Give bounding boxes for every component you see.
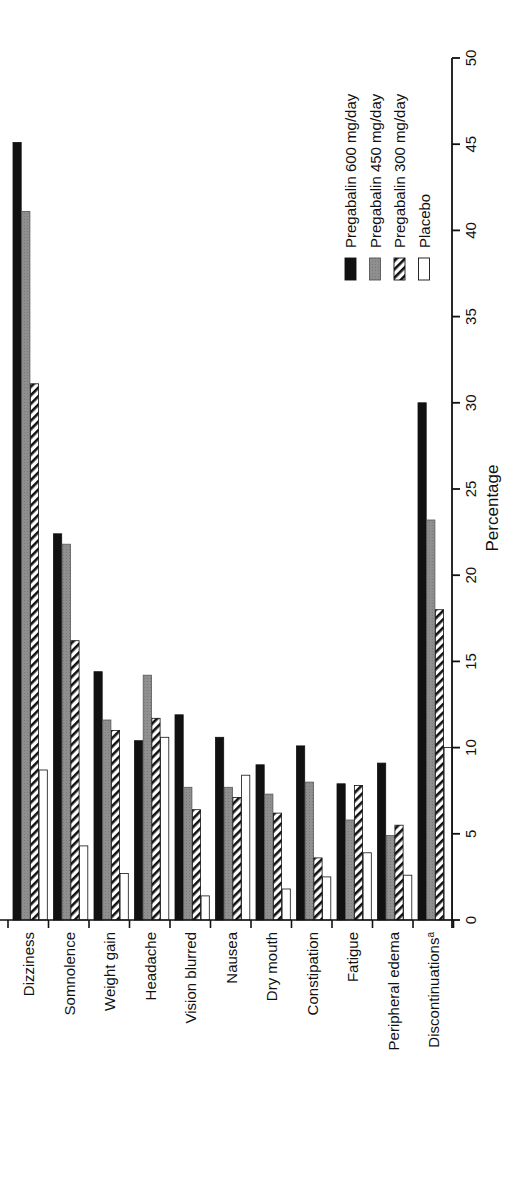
bar (395, 825, 403, 920)
legend: Pregabalin 600 mg/dayPregabalin 450 mg/d… (342, 93, 433, 280)
bar (323, 877, 331, 920)
bar (143, 675, 151, 920)
bar-group (256, 765, 290, 920)
bar (192, 810, 200, 920)
bar (427, 520, 435, 920)
bar-group (175, 715, 209, 920)
category-label: Constipation (304, 932, 321, 1015)
value-axis: 05101520253035404550Percentage (452, 50, 502, 928)
bar-group (297, 746, 331, 920)
value-tick-label: 45 (462, 136, 479, 153)
bar (404, 875, 412, 920)
bar-group (54, 534, 88, 920)
bar (386, 836, 394, 921)
bar (435, 610, 443, 920)
bar (94, 672, 102, 920)
legend-swatch (394, 258, 405, 280)
bar-group (216, 737, 250, 920)
value-tick-label: 35 (462, 308, 479, 325)
bar (224, 787, 232, 920)
legend-label: Pregabalin 600 mg/day (342, 93, 359, 248)
bar (111, 730, 119, 920)
bar (444, 748, 452, 920)
legend-swatch (419, 258, 430, 280)
value-tick-label: 5 (462, 830, 479, 838)
category-label: Somnolence (61, 932, 78, 1015)
bar (346, 820, 354, 920)
bar (354, 786, 362, 921)
bar-group (13, 143, 47, 921)
legend-item: Pregabalin 450 mg/day (367, 93, 384, 280)
value-axis-title: Percentage (483, 465, 502, 552)
bar (273, 813, 281, 920)
bar (103, 720, 111, 920)
value-tick-label: 30 (462, 394, 479, 411)
grouped-bar-chart: 05101520253035404550Percentage Dizziness… (0, 0, 527, 1184)
legend-item: Placebo (416, 194, 433, 280)
legend-swatch (370, 258, 381, 280)
category-label: Nausea (223, 931, 240, 983)
legend-label: Pregabalin 450 mg/day (367, 93, 384, 248)
bar (175, 715, 183, 920)
category-label: Fatigue (344, 932, 361, 982)
bar (216, 737, 224, 920)
value-tick-label: 40 (462, 222, 479, 239)
bar-group (337, 784, 371, 920)
value-tick-label: 0 (462, 916, 479, 924)
legend-swatch (345, 258, 356, 280)
bar-group (94, 672, 128, 920)
bar (80, 846, 88, 920)
bar (201, 896, 209, 920)
bar (22, 211, 30, 920)
bar (314, 858, 322, 920)
category-label: Discontinuationsa (425, 932, 442, 1048)
bar (184, 787, 192, 920)
bar (363, 853, 371, 920)
bar (62, 544, 70, 920)
bar-group (378, 763, 412, 920)
legend-label: Placebo (416, 194, 433, 248)
footnote-superscript: a (425, 932, 436, 938)
bar-group (135, 675, 169, 920)
bar-group (418, 403, 452, 920)
value-tick-label: 15 (462, 653, 479, 670)
bar (242, 775, 250, 920)
chart-container: 05101520253035404550Percentage Dizziness… (0, 0, 527, 1184)
legend-label: Pregabalin 300 mg/day (391, 93, 408, 248)
bar (30, 384, 38, 920)
bars-layer (13, 143, 452, 921)
bar (265, 794, 273, 920)
bar (256, 765, 264, 920)
category-label: Dry mouth (263, 932, 280, 1001)
bar (120, 874, 128, 921)
bar (378, 763, 386, 920)
value-tick-label: 50 (462, 50, 479, 67)
legend-item: Pregabalin 300 mg/day (391, 93, 408, 280)
bar (305, 782, 313, 920)
category-axis: DizzinessSomnolenceWeight gainHeadacheVi… (0, 920, 454, 1050)
category-label: Vision blurred (182, 932, 199, 1023)
value-tick-label: 25 (462, 481, 479, 498)
value-tick-label: 20 (462, 567, 479, 584)
bar (13, 143, 21, 921)
bar (282, 889, 290, 920)
legend-item: Pregabalin 600 mg/day (342, 93, 359, 280)
category-label: Peripheral edema (385, 931, 402, 1050)
bar (297, 746, 305, 920)
bar (39, 770, 47, 920)
category-label: Weight gain (101, 932, 118, 1011)
bar (71, 641, 79, 920)
bar (161, 737, 169, 920)
category-label: Headache (142, 932, 159, 1000)
bar (233, 798, 241, 920)
value-tick-label: 10 (462, 739, 479, 756)
bar (418, 403, 426, 920)
category-label: Dizziness (20, 932, 37, 996)
bar (152, 718, 160, 920)
bar (135, 741, 143, 920)
bar (54, 534, 62, 920)
bar (337, 784, 345, 920)
